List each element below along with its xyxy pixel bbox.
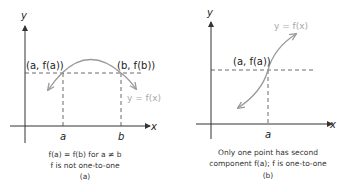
caption-line-3: (b)	[263, 171, 274, 180]
panel-b: y x (a, f(a)) y = f(x) a Only one point …	[196, 7, 336, 180]
curve-left-end	[48, 73, 62, 90]
caption-line-1: f(a) = f(b) for a ≠ b	[49, 150, 122, 159]
curve-lower	[238, 70, 268, 108]
y-axis-label: y	[206, 7, 214, 18]
curve-parabola	[62, 60, 121, 74]
curve-right-end	[121, 73, 136, 89]
curve-label: y = f(x)	[127, 93, 161, 103]
caption-line-2: component f(a); f is one-to-one	[209, 159, 327, 168]
tick-a-label: a	[265, 129, 271, 140]
caption-line-1: Only one point has second	[218, 148, 318, 157]
curve-upper	[268, 34, 296, 70]
caption-line-3: (a)	[80, 172, 91, 181]
panel-a: y x (a, f(a)) (b, f(b)) y = f(x) a b f(a…	[10, 10, 161, 181]
y-axis-label: y	[20, 10, 28, 21]
point-b-label: (b, f(b))	[117, 60, 155, 71]
tick-a-label: a	[60, 131, 66, 142]
caption-line-2: f is not one-to-one	[50, 161, 120, 170]
curve-label: y = f(x)	[274, 21, 308, 31]
diagram-canvas: y x (a, f(a)) (b, f(b)) y = f(x) a b f(a…	[0, 0, 337, 192]
x-axis-label: x	[150, 121, 157, 132]
point-a-label: (a, f(a))	[233, 56, 271, 67]
x-axis-label: x	[329, 119, 336, 130]
tick-b-label: b	[118, 131, 124, 142]
point-a-label: (a, f(a))	[26, 60, 64, 71]
